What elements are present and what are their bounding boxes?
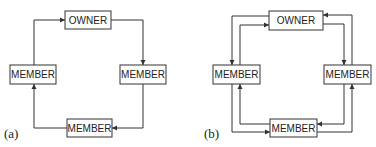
arrow-owner-to-right bbox=[111, 20, 143, 65]
panel-a: OWNER MEMBER MEMBER MEMBER (a) bbox=[4, 11, 166, 141]
arrow-bottom-to-right bbox=[317, 84, 352, 132]
arrow-left-to-bottom bbox=[232, 84, 270, 132]
caption-b: (b) bbox=[204, 126, 219, 141]
arrow-right-to-owner bbox=[323, 15, 352, 65]
node-member-left: MEMBER bbox=[10, 65, 56, 84]
svg-text:MEMBER: MEMBER bbox=[68, 123, 112, 134]
arrow-right-to-bottom bbox=[317, 84, 344, 124]
caption-a: (a) bbox=[4, 126, 18, 141]
node-member-right: MEMBER bbox=[120, 65, 166, 84]
svg-text:OWNER: OWNER bbox=[69, 15, 107, 26]
arrow-owner-to-right bbox=[323, 24, 344, 65]
node-owner: OWNER bbox=[269, 11, 323, 30]
svg-text:MEMBER: MEMBER bbox=[326, 69, 370, 80]
svg-text:OWNER: OWNER bbox=[277, 15, 315, 26]
arrow-left-to-owner bbox=[240, 25, 269, 65]
node-member-left: MEMBER bbox=[213, 65, 260, 84]
node-member-right: MEMBER bbox=[324, 65, 371, 84]
svg-text:MEMBER: MEMBER bbox=[215, 69, 259, 80]
svg-text:MEMBER: MEMBER bbox=[121, 69, 165, 80]
node-member-bottom: MEMBER bbox=[67, 119, 112, 137]
svg-text:MEMBER: MEMBER bbox=[272, 123, 316, 134]
arrow-right-to-bottom bbox=[112, 84, 143, 128]
panel-b: OWNER MEMBER MEMBER MEMBER (b) bbox=[204, 11, 371, 141]
arrow-left-to-owner bbox=[34, 20, 65, 65]
arrow-bottom-to-left bbox=[34, 84, 67, 128]
arrow-bottom-to-left bbox=[240, 84, 270, 124]
arrow-owner-to-left bbox=[232, 16, 269, 65]
svg-text:MEMBER: MEMBER bbox=[11, 69, 55, 80]
node-member-bottom: MEMBER bbox=[270, 119, 317, 137]
owner-member-ring-diagrams: OWNER MEMBER MEMBER MEMBER (a) OW bbox=[0, 0, 376, 147]
node-owner: OWNER bbox=[65, 11, 111, 29]
